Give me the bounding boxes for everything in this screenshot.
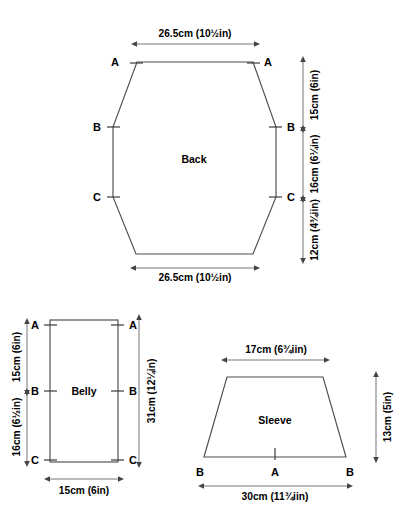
- pattern-diagram: A A B B C C Back 26.5cm (10½in) 26.5cm (…: [0, 0, 405, 513]
- back-right-dim-label-3: 12cm (4¾iin): [309, 199, 320, 261]
- sleeve-piece-label: Sleeve: [258, 414, 291, 426]
- back-piece-label: Back: [181, 153, 206, 165]
- sleeve-label-b-left: B: [196, 466, 204, 478]
- belly-label-b-right: B: [129, 385, 137, 397]
- back-label-a-right: A: [264, 56, 272, 68]
- sleeve-bottom-dim-label: 30cm (11¾iin): [242, 491, 309, 502]
- belly-left-dimension-top: 15cm (6in): [11, 324, 27, 390]
- belly-right-dimension: 31cm (12¼in): [139, 320, 157, 462]
- back-label-a-left: A: [111, 56, 119, 68]
- back-right-dimension-bottom: 12cm (4¾iin): [303, 199, 320, 261]
- belly-label-a-left: A: [31, 319, 39, 331]
- back-bottom-dim-label: 26.5cm (10½in): [158, 272, 231, 283]
- sleeve-right-dim-label: 13cm (5in): [382, 392, 393, 442]
- sleeve-bottom-dimension: 30cm (11¾iin): [204, 486, 347, 502]
- belly-label-c-right: C: [129, 454, 137, 466]
- back-label-c-right: C: [287, 191, 295, 203]
- belly-bottom-dim-label: 15cm (6in): [59, 485, 109, 496]
- back-label-b-right: B: [287, 121, 295, 133]
- back-right-dimension-top: 15cm (6in): [303, 62, 320, 127]
- piece-back: A A B B C C Back 26.5cm (10½in) 26.5cm (…: [93, 28, 320, 283]
- sleeve-top-dim-label: 17cm (6¾iin): [245, 344, 307, 355]
- sleeve-top-dimension: 17cm (6¾iin): [227, 344, 324, 360]
- belly-label-a-right: A: [129, 319, 137, 331]
- belly-left-dimension-bottom: 16cm (6½in): [11, 394, 27, 461]
- belly-right-dim-label: 31cm (12¼in): [146, 359, 157, 424]
- back-top-dimension: 26.5cm (10½in): [137, 28, 254, 44]
- pattern-diagram-canvas: A A B B C C Back 26.5cm (10½in) 26.5cm (…: [0, 0, 405, 513]
- piece-belly: A A B B C C Belly 15cm (6in) 16cm (6½in)…: [11, 319, 157, 496]
- sleeve-label-b-right: B: [346, 466, 354, 478]
- belly-left-dim-label-2: 16cm (6½in): [11, 398, 22, 457]
- back-label-c-left: C: [93, 191, 101, 203]
- belly-label-b-left: B: [31, 385, 39, 397]
- back-right-dimension-mid: 16cm (6¼in): [303, 131, 320, 197]
- belly-label-c-left: C: [31, 454, 39, 466]
- back-bottom-dimension: 26.5cm (10½in): [136, 268, 254, 283]
- belly-piece-label: Belly: [71, 385, 96, 397]
- sleeve-label-a-center: A: [271, 466, 279, 478]
- belly-bottom-dimension: 15cm (6in): [50, 479, 118, 496]
- back-right-dim-label-2: 16cm (6¼in): [309, 135, 320, 194]
- back-label-b-left: B: [93, 121, 101, 133]
- back-right-dim-label-1: 15cm (6in): [309, 70, 320, 120]
- sleeve-right-dimension: 13cm (5in): [376, 377, 393, 457]
- back-top-dim-label: 26.5cm (10½in): [158, 28, 231, 39]
- belly-left-dim-label-1: 15cm (6in): [11, 332, 22, 382]
- piece-sleeve: B A B Sleeve 17cm (6¾iin) 30cm (11¾iin) …: [196, 344, 393, 502]
